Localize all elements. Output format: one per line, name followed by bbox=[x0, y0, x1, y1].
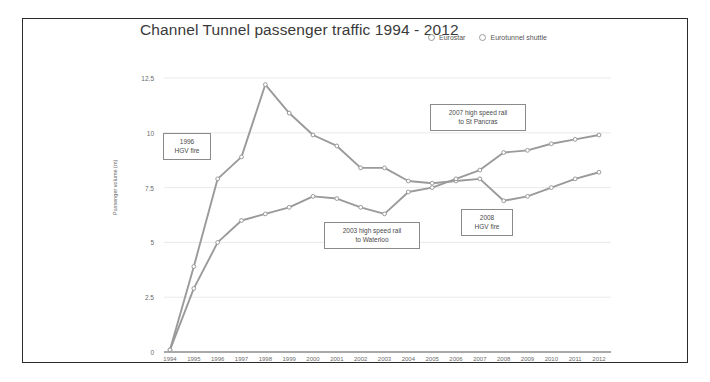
data-point bbox=[502, 199, 506, 203]
data-point bbox=[454, 177, 458, 181]
series-line-eurotunnel-shuttle bbox=[170, 85, 599, 350]
data-point bbox=[549, 142, 553, 146]
data-point bbox=[216, 177, 220, 181]
data-point bbox=[478, 168, 482, 172]
data-point bbox=[359, 205, 363, 209]
data-point bbox=[502, 151, 506, 155]
data-point bbox=[240, 219, 244, 223]
data-point bbox=[287, 111, 291, 115]
data-point bbox=[406, 190, 410, 194]
data-point bbox=[287, 205, 291, 209]
data-point bbox=[263, 212, 267, 216]
data-point bbox=[383, 212, 387, 216]
data-point bbox=[597, 170, 601, 174]
data-point bbox=[573, 137, 577, 141]
data-point bbox=[549, 186, 553, 190]
data-point bbox=[335, 144, 339, 148]
annotation-2008-hgv-fire: 2008 HGV fire bbox=[461, 209, 513, 236]
data-point bbox=[573, 177, 577, 181]
data-point bbox=[526, 194, 530, 198]
data-point bbox=[406, 179, 410, 183]
data-point bbox=[168, 348, 172, 352]
annotation-1996-hgv-fire: 1996 HGV fire bbox=[163, 133, 211, 160]
data-point bbox=[311, 133, 315, 137]
chart-plot-area bbox=[0, 0, 710, 382]
data-point bbox=[430, 186, 434, 190]
annotation-2007-high-speed-rail: 2007 high speed rail to St Pancras bbox=[430, 104, 526, 131]
figure-root: Channel Tunnel passenger traffic 1994 - … bbox=[0, 0, 710, 382]
data-point bbox=[597, 133, 601, 137]
data-point bbox=[478, 177, 482, 181]
data-point bbox=[216, 241, 220, 245]
data-point bbox=[430, 181, 434, 185]
data-point bbox=[311, 194, 315, 198]
annotation-2003-high-speed-rail: 2003 high speed rail to Waterloo bbox=[324, 222, 420, 249]
data-point bbox=[240, 155, 244, 159]
data-point bbox=[359, 166, 363, 170]
data-point bbox=[383, 166, 387, 170]
data-point bbox=[192, 265, 196, 269]
data-point bbox=[192, 287, 196, 291]
data-point bbox=[263, 83, 267, 87]
data-point bbox=[335, 197, 339, 201]
data-point bbox=[526, 148, 530, 152]
